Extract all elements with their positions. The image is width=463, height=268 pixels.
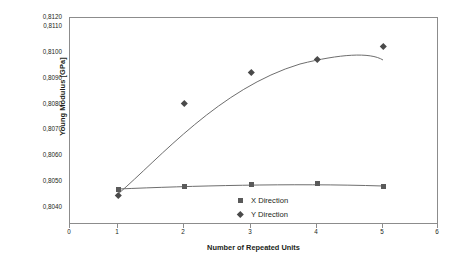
legend-label: X Direction	[247, 196, 288, 205]
x-tick-label: 1	[110, 228, 124, 235]
y-tick-label: 0,8110	[26, 22, 62, 29]
data-point-x-direction	[381, 184, 386, 189]
y-tick-label: 0,8100	[26, 48, 62, 55]
x-tick-label: 2	[176, 228, 190, 235]
x-tick-label: 6	[430, 228, 444, 235]
x-axis-title: Number of Repeated Units	[69, 243, 438, 252]
chart-legend: X Direction Y Direction	[233, 193, 288, 221]
x-tick-label: 4	[309, 228, 323, 235]
legend-label: Y Direction	[247, 210, 288, 219]
data-point-x-direction	[116, 187, 121, 192]
y-tick-label: 0,8090	[26, 74, 62, 81]
legend-item-y-direction: Y Direction	[233, 207, 288, 221]
x-tick-label: 0	[62, 228, 76, 235]
data-point-x-direction	[249, 182, 254, 187]
x-tick-label: 3	[243, 228, 257, 235]
y-tick-label: 0,8060	[26, 151, 62, 158]
legend-item-x-direction: X Direction	[233, 193, 288, 207]
chart-figure: Young Modulus [GPa] 0,8040 0,8050 0,8060…	[0, 0, 463, 268]
y-tick-label: 0,8070	[26, 125, 62, 132]
y-tick-label: 0,8080	[26, 100, 62, 107]
y-tick-label: 0,8050	[26, 177, 62, 184]
y-tick-label: 0,8120	[26, 13, 62, 20]
diamond-marker-icon	[233, 212, 247, 217]
data-point-x-direction	[315, 181, 320, 186]
x-tick-label: 5	[375, 228, 389, 235]
y-direction-trendline	[118, 55, 383, 194]
square-marker-icon	[233, 198, 247, 203]
y-tick-label: 0,8040	[26, 203, 62, 210]
data-point-x-direction	[182, 184, 187, 189]
